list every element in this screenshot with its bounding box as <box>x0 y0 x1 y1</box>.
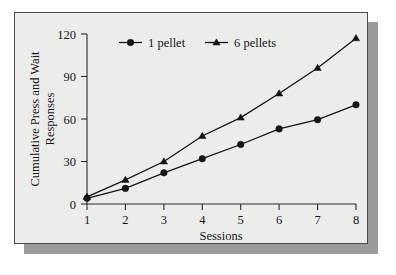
legend-entry-1-pellet[interactable]: 1 pellet <box>119 36 186 50</box>
x-tick-label-3: 3 <box>161 213 167 227</box>
legend-entry-6-pellets[interactable]: 6 pellets <box>205 36 276 50</box>
data-point-marker <box>84 195 91 202</box>
x-tick-label-2: 2 <box>122 213 128 227</box>
y-axis-title: Cumulative Press and Wait Responses <box>28 51 57 187</box>
y-tick-label-30: 30 <box>64 155 77 169</box>
y-tick-label-60: 60 <box>64 113 77 127</box>
chart-panel: 120 90 60 30 0 1 2 3 4 5 <box>14 12 368 244</box>
x-tick-label-1: 1 <box>84 213 90 227</box>
x-tick-label-7: 7 <box>314 213 320 227</box>
y-tick-label-90: 90 <box>64 70 77 84</box>
x-tick-label-6: 6 <box>276 213 282 227</box>
circle-marker <box>127 39 134 46</box>
y-axis-title-line1: Cumulative Press and Wait <box>28 51 42 187</box>
x-axis: 1 2 3 4 5 6 7 8 <box>84 204 359 227</box>
data-point-marker <box>237 114 244 120</box>
y-axis-title-line2: Responses <box>43 92 57 145</box>
data-point-marker <box>276 126 283 133</box>
figure-container: 120 90 60 30 0 1 2 3 4 5 <box>0 0 396 275</box>
data-point-marker <box>353 102 360 109</box>
y-axis: 120 90 60 30 0 <box>57 28 87 212</box>
line-chart: 120 90 60 30 0 1 2 3 4 5 <box>15 13 367 243</box>
y-tick-label-0: 0 <box>70 198 76 212</box>
chart-legend: 1 pellet 6 pellets <box>119 36 276 50</box>
y-tick-label-120: 120 <box>57 28 76 42</box>
x-axis-title: Sessions <box>199 229 242 243</box>
series-1-pellet <box>84 102 360 202</box>
legend-label-6-pellets: 6 pellets <box>234 36 276 50</box>
x-tick-label-8: 8 <box>353 213 359 227</box>
data-point-marker <box>352 35 359 41</box>
data-point-marker <box>161 170 168 177</box>
data-point-marker <box>199 155 206 162</box>
x-tick-label-4: 4 <box>199 213 206 227</box>
data-point-marker <box>237 141 244 148</box>
data-point-marker <box>314 116 321 123</box>
legend-label-1-pellet: 1 pellet <box>148 36 186 50</box>
x-tick-label-5: 5 <box>238 213 244 227</box>
data-point-marker <box>122 185 129 192</box>
data-point-marker <box>160 158 167 164</box>
data-point-marker <box>275 90 282 96</box>
